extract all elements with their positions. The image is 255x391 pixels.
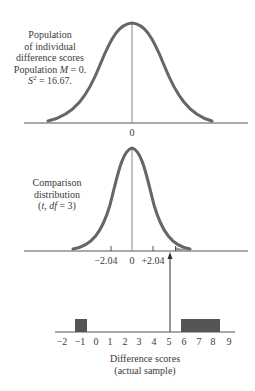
bar-six-to-eight	[181, 319, 220, 332]
top-label-line-3: difference scores	[6, 52, 94, 64]
mean-var: M	[60, 64, 68, 75]
bottom-tick: 1	[108, 336, 113, 347]
bottom-tick: 6	[182, 336, 187, 347]
bottom-xlabel: Difference scores (actual sample)	[100, 353, 190, 376]
xlabel-line-2: (actual sample)	[100, 365, 190, 377]
middle-label-line-2: distribution	[22, 189, 92, 201]
bottom-tick: 7	[197, 336, 202, 347]
top-panel-label: Population of individual difference scor…	[6, 29, 94, 87]
top-axis-tick-zero: 0	[130, 127, 135, 138]
bottom-tick: 5	[167, 336, 172, 347]
df-var: df	[49, 200, 57, 211]
xlabel-line-1: Difference scores	[100, 353, 190, 365]
paren-close: = 3)	[57, 200, 76, 211]
bottom-panel-graphics	[55, 319, 235, 332]
bottom-tick: −1	[75, 336, 86, 347]
bottom-tick: 0	[94, 336, 99, 347]
bottom-tick: −2	[57, 336, 68, 347]
bottom-tick: 4	[152, 336, 157, 347]
top-label-line-2: of individual	[6, 41, 94, 53]
mean-suffix: = 0.	[68, 64, 86, 75]
variance-suffix: = 16.67.	[36, 75, 72, 86]
top-label-line-1: Population	[6, 29, 94, 41]
middle-label-params: (t, df = 3)	[22, 200, 92, 212]
middle-tick-neg: −2.04	[94, 255, 117, 266]
arrow-up-icon	[168, 252, 173, 259]
top-label-mean: Population M = 0.	[6, 64, 94, 76]
middle-tick-zero: 0	[130, 255, 135, 266]
middle-tick-pos: +2.04	[141, 255, 164, 266]
bottom-tick: 9	[227, 336, 232, 347]
mean-prefix: Population	[14, 64, 60, 75]
figure: Population of individual difference scor…	[0, 0, 255, 391]
sample-mean-arrow	[168, 252, 173, 332]
bar-neg-one	[75, 319, 87, 332]
middle-label-line-1: Comparison	[22, 177, 92, 189]
bottom-tick: 3	[137, 336, 142, 347]
bottom-tick: 2	[123, 336, 128, 347]
bottom-tick: 8	[211, 336, 216, 347]
top-label-variance: S2 = 16.67.	[6, 75, 94, 87]
middle-panel-label: Comparison distribution (t, df = 3)	[22, 177, 92, 212]
